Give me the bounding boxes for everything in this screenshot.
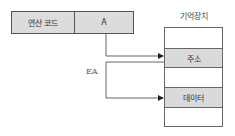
memory-block: 주소 데이터 bbox=[164, 27, 223, 127]
memory-row-data: 데이터 bbox=[165, 87, 222, 108]
memory-row-address: 주소 bbox=[165, 48, 222, 68]
memory-title: 기억장치 bbox=[164, 10, 223, 21]
effective-address-arrow bbox=[106, 62, 164, 98]
instruction-format: 연산 코드 A bbox=[11, 11, 134, 34]
address-arrow bbox=[106, 34, 163, 56]
memory-row-empty bbox=[165, 68, 222, 88]
address-field: A bbox=[75, 12, 133, 33]
ea-label: EA bbox=[86, 67, 98, 76]
opcode-field: 연산 코드 bbox=[12, 12, 75, 33]
memory-row-empty bbox=[165, 108, 222, 127]
memory-row-empty bbox=[165, 28, 222, 49]
